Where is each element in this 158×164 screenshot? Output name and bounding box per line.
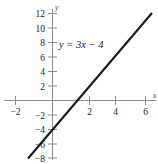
x-tick-label: 4: [113, 107, 118, 117]
y-tick-label: −6: [35, 140, 45, 150]
coordinate-plane: y x 12 10 8 6 4 2 −2 −4 −6 −8 −2 2 4 6 y…: [0, 0, 158, 164]
y-tick-label: −4: [35, 125, 45, 135]
y-tick-label: 4: [40, 67, 45, 77]
y-tick-label: 6: [40, 53, 45, 63]
x-tick-label: 2: [87, 107, 92, 117]
x-tick-label: −2: [10, 107, 20, 117]
x-tick-label: 6: [143, 107, 148, 117]
x-axis-label: x: [152, 91, 157, 100]
y-axis-label: y: [54, 3, 59, 12]
line-y-equals-3x-minus-4: [28, 13, 152, 159]
y-tick-label: 12: [36, 9, 46, 19]
y-tick-label: −8: [35, 154, 45, 164]
equation-label: y = 3x − 4: [58, 39, 104, 50]
y-tick-label: −2: [35, 111, 45, 121]
y-tick-label: 8: [40, 38, 45, 48]
y-tick-label: 2: [40, 82, 45, 92]
y-tick-label: 10: [36, 24, 46, 34]
graph-figure: y x 12 10 8 6 4 2 −2 −4 −6 −8 −2 2 4 6 y…: [0, 0, 158, 164]
